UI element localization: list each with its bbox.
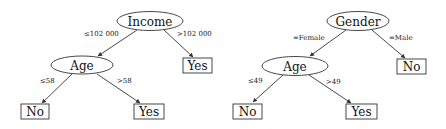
leaf-no-young-female-label: No — [239, 105, 257, 119]
node-age-label: Age — [69, 59, 93, 73]
leaf-no-male-label: No — [403, 60, 421, 74]
edge-label-income-gt: >102 000 — [177, 30, 212, 38]
decision-trees-figure: ≤102 000 >102 000 ≤58 >58 Income Age Yes… — [0, 0, 446, 129]
edge-label-age2-le: ≤49 — [248, 77, 263, 85]
edge-label-male: =Male — [389, 34, 413, 42]
leaf-no-young-label: No — [26, 105, 44, 119]
node-gender-label: Gender — [336, 15, 381, 29]
edge-label-age-gt: >58 — [117, 77, 132, 85]
node-income-label: Income — [128, 15, 173, 29]
leaf-yes-high-income-label: Yes — [186, 59, 207, 73]
edge-label-age2-gt: >49 — [326, 78, 341, 86]
edge-label-age-le: ≤58 — [40, 77, 55, 85]
gender-tree: =Female =Male ≤49 >49 Gender Age No No Y… — [233, 12, 426, 120]
edge-label-female: =Female — [293, 34, 325, 42]
leaf-yes-old-female-label: Yes — [350, 105, 371, 119]
income-tree: ≤102 000 >102 000 ≤58 >58 Income Age Yes… — [21, 12, 212, 120]
leaf-yes-old-label: Yes — [138, 105, 159, 119]
edge-label-income-le: ≤102 000 — [84, 30, 119, 38]
node-age-2-label: Age — [282, 60, 306, 74]
